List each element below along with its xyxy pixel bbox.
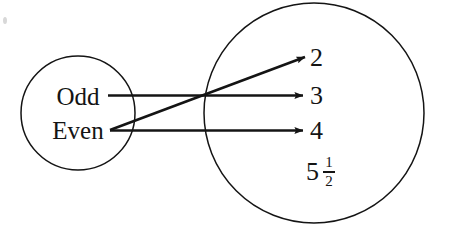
codomain-member-four: 4	[310, 118, 323, 144]
arrow-even-to-two	[110, 57, 305, 130]
mapping-diagram: Odd Even 2 3 4 5 1 2	[0, 0, 456, 226]
codomain-circle	[204, 3, 424, 223]
scan-artifact	[3, 17, 7, 24]
domain-circle	[21, 56, 135, 170]
codomain-member-mixed-number: 5 1 2	[306, 155, 335, 189]
domain-member-even: Even	[52, 118, 103, 143]
fraction-numerator: 1	[323, 155, 335, 171]
mixed-number-whole-part: 5	[306, 159, 319, 185]
fraction-denominator: 2	[323, 173, 335, 189]
fraction: 1 2	[323, 155, 335, 189]
domain-member-odd: Odd	[56, 84, 99, 109]
codomain-member-two: 2	[310, 45, 323, 71]
diagram-canvas	[0, 0, 456, 226]
codomain-member-three: 3	[310, 83, 323, 109]
